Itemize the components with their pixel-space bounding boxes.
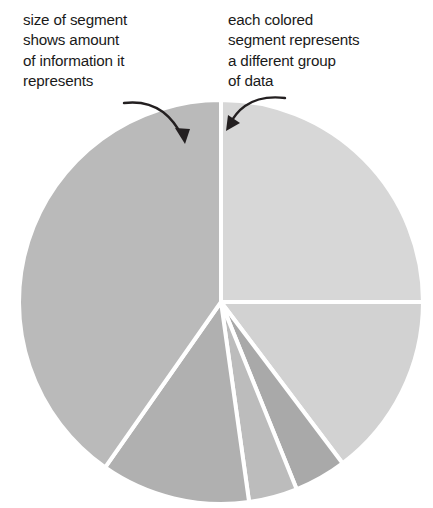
arrow-right bbox=[226, 97, 285, 131]
pie-slice[interactable] bbox=[221, 302, 297, 502]
annotation-each-colored-segment: each colored segment represents a differ… bbox=[228, 10, 360, 92]
pie-disc-base bbox=[19, 100, 423, 504]
pie-slice[interactable] bbox=[105, 302, 249, 504]
pie-slice[interactable] bbox=[221, 302, 343, 489]
pie-slice[interactable] bbox=[221, 302, 423, 463]
pie-slice[interactable] bbox=[19, 100, 221, 467]
annotation-size-of-segment: size of segment shows amount of informat… bbox=[23, 10, 127, 92]
pie-chart-figure: size of segment shows amount of informat… bbox=[0, 0, 433, 508]
pie-slice[interactable] bbox=[221, 100, 423, 302]
arrow-left bbox=[124, 102, 190, 144]
